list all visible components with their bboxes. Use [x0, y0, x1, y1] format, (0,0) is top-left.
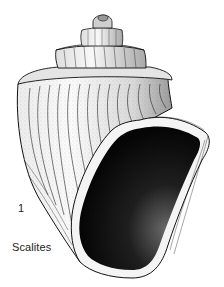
second-whorl: [56, 44, 146, 68]
apex: [93, 15, 112, 28]
figure-number: 1: [18, 202, 24, 214]
third-whorl: [81, 28, 123, 46]
figure-caption: Scalites: [12, 241, 51, 253]
